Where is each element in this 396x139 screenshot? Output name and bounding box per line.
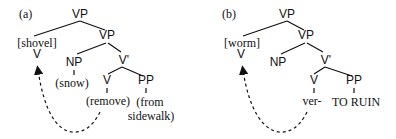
panel-a: (a) VP [shovel] V VP NP (snow) V' V (rem… [17,7,174,132]
panel-b-pp: PP [346,73,362,87]
panel-a-pp-word-1: (from [136,95,164,109]
panel-a-pp-word-2: sidewalk) [128,109,175,123]
panel-b-vbar: V' [321,53,331,67]
panel-b-pp-word: TO RUIN [332,95,380,109]
panel-a-moved-verb-cat: V [33,47,41,61]
panel-a-np: NP [66,55,83,69]
syntax-tree-diagram: (a) VP [shovel] V VP NP (snow) V' V (rem… [0,0,396,139]
movement-arrow [243,70,307,132]
panel-a-v-word: (remove) [86,94,130,108]
panel-a-vbar: V' [119,53,129,67]
panel-b-moved-verb-cat: V [237,47,245,61]
edge [108,43,121,52]
panel-a-np-word: (snow) [55,76,88,90]
panel-b-label: (b) [222,7,236,21]
panel-b-vp2: VP [298,28,314,42]
edge [34,21,80,36]
panel-a-pp: PP [138,73,154,87]
panel-b-root-vp: VP [279,7,295,21]
panel-a-label: (a) [19,7,32,21]
edge [307,43,323,52]
edge [77,43,106,54]
panel-a-root-vp: VP [72,7,88,21]
edge [243,21,287,36]
panel-b: (b) VP [worm] V VP NP V' V ver- PP TO RU… [222,7,380,132]
edge [281,43,305,54]
panel-b-np: NP [270,55,287,69]
panel-b-v: V [310,73,318,87]
panel-a-vp2: VP [99,28,115,42]
panel-b-v-word: ver- [302,94,321,108]
panel-a-v: V [103,73,111,87]
